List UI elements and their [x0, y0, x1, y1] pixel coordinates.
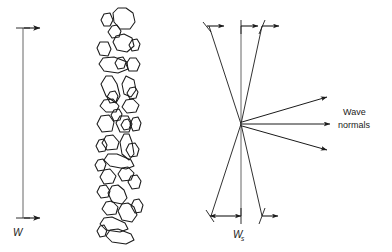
- diverging-ray-right: [241, 124, 262, 216]
- grain-outline: [129, 39, 140, 51]
- grain-outline: [128, 175, 141, 189]
- right-panel-group: [203, 20, 330, 224]
- grain-outline: [97, 115, 114, 132]
- grain-outline: [101, 13, 113, 26]
- grain-outline: [126, 58, 140, 71]
- grain-outline: [97, 42, 111, 56]
- grain-outline: [122, 99, 139, 113]
- grain-outline: [113, 8, 135, 29]
- wave-normal-arrow-upper: [242, 97, 327, 122]
- grain-outline: [115, 57, 126, 69]
- diagram-svg: W W s Wave normals: [0, 0, 392, 252]
- grain-outline: [107, 91, 118, 103]
- grain-outline: [95, 159, 106, 171]
- grain-outline: [96, 139, 107, 152]
- grain-outline: [122, 76, 136, 97]
- grain-outline: [97, 225, 107, 237]
- converging-ray-right: [241, 26, 262, 124]
- grain-outline: [99, 57, 128, 73]
- grain-structure-group: [95, 8, 143, 244]
- converging-ray-left: [209, 26, 241, 124]
- top-tick-right: [259, 20, 265, 34]
- grain-outline: [106, 229, 134, 244]
- grain-outline: [100, 169, 116, 184]
- grain-outline: [121, 119, 131, 130]
- wave-normals-label-line2: normals: [338, 120, 371, 130]
- diverging-ray-left: [211, 124, 241, 216]
- grain-outline: [108, 25, 121, 38]
- grain-outline: [102, 135, 119, 150]
- grain-outline: [97, 185, 110, 198]
- wave-normal-arrow-lower: [242, 126, 327, 150]
- left-panel-group: [16, 28, 40, 218]
- wave-normals-label-line1: Wave: [343, 107, 366, 117]
- grain-outline: [127, 87, 138, 99]
- top-tick-left: [203, 22, 211, 32]
- figure-canvas: W W s Wave normals: [0, 0, 392, 252]
- beam-width-label: W: [13, 227, 24, 238]
- spot-width-subscript-label: s: [241, 235, 245, 242]
